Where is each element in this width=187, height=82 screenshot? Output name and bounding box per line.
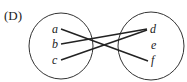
mapping-diagram: a b c d e f bbox=[0, 0, 187, 82]
domain-set-circle bbox=[29, 13, 93, 79]
element-c: c bbox=[52, 53, 58, 67]
element-b: b bbox=[52, 37, 58, 51]
element-e: e bbox=[151, 38, 157, 52]
mapping-arrow-b-d bbox=[61, 29, 147, 44]
element-a: a bbox=[52, 22, 58, 36]
element-d: d bbox=[150, 22, 157, 36]
element-f: f bbox=[151, 53, 156, 67]
